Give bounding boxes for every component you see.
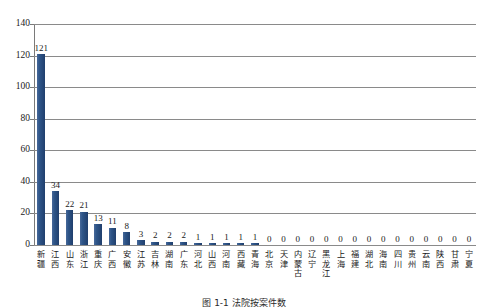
y-tick-label: 140 — [0, 19, 30, 28]
y-tick-label: 60 — [0, 145, 30, 154]
x-axis-label: 黑龙江 — [319, 250, 333, 279]
y-tick-label: 40 — [0, 177, 30, 186]
bar-value-label: 0 — [456, 235, 482, 244]
bar-slot: 11 — [105, 24, 119, 245]
x-axis-label: 上海 — [333, 250, 347, 269]
bar-slot: 1 — [191, 24, 205, 245]
bar-slot: 0 — [262, 24, 276, 245]
y-tick-label: 0 — [0, 240, 30, 249]
x-axis-line — [34, 245, 476, 246]
x-axis-label: 河南 — [219, 250, 233, 269]
x-axis-label: 江西 — [48, 250, 62, 269]
x-axis-label: 贵州 — [405, 250, 419, 269]
bar-slot: 0 — [333, 24, 347, 245]
bar-slot: 0 — [419, 24, 433, 245]
x-axis-label: 河北 — [191, 250, 205, 269]
x-axis-label: 内蒙古 — [291, 250, 305, 279]
x-axis-label: 甘肃 — [447, 250, 461, 269]
bar-slot: 3 — [134, 24, 148, 245]
bar — [37, 54, 44, 245]
x-axis-label: 广东 — [177, 250, 191, 269]
bar-slot: 0 — [291, 24, 305, 245]
bar — [166, 242, 173, 245]
y-tick-label: 20 — [0, 208, 30, 217]
figure-caption: 图 1-1 法院按案件数 — [0, 298, 488, 308]
bar — [137, 240, 144, 245]
bar — [223, 243, 230, 245]
x-axis-label: 浙江 — [77, 250, 91, 269]
bar-slot: 0 — [376, 24, 390, 245]
y-tick-label: 120 — [0, 51, 30, 60]
x-axis-label: 云南 — [419, 250, 433, 269]
bar — [209, 243, 216, 245]
x-axis-label: 江苏 — [134, 250, 148, 269]
bar-slot: 1 — [205, 24, 219, 245]
bar — [94, 224, 101, 245]
bar-slot: 0 — [462, 24, 476, 245]
bar-slot: 0 — [319, 24, 333, 245]
bar-slot: 1 — [248, 24, 262, 245]
bar-slot: 0 — [305, 24, 319, 245]
x-axis-label: 山西 — [205, 250, 219, 269]
x-axis-label: 北京 — [262, 250, 276, 269]
bar — [66, 210, 73, 245]
bar-slot: 1 — [219, 24, 233, 245]
bar-slot: 2 — [162, 24, 176, 245]
bar-slot: 1 — [234, 24, 248, 245]
bar-slot: 0 — [447, 24, 461, 245]
x-axis-label: 宁夏 — [462, 250, 476, 269]
bar-series: 12134222113118322211111000000000000000 — [34, 24, 476, 245]
x-axis-label: 湖北 — [362, 250, 376, 269]
bar-slot: 0 — [362, 24, 376, 245]
y-tick-label: 100 — [0, 82, 30, 91]
bar-slot: 22 — [63, 24, 77, 245]
x-axis-label: 辽宁 — [305, 250, 319, 269]
x-axis-label: 四川 — [390, 250, 404, 269]
bar-chart: 020406080100120140 121342221131183222111… — [0, 0, 488, 308]
bar — [180, 242, 187, 245]
bar-slot: 0 — [390, 24, 404, 245]
bar-slot: 0 — [405, 24, 419, 245]
x-axis-label: 青海 — [248, 250, 262, 269]
x-axis-label: 新疆 — [34, 250, 48, 269]
bar — [251, 243, 258, 245]
bar-slot: 13 — [91, 24, 105, 245]
x-axis-label: 陕西 — [433, 250, 447, 269]
bar-slot: 34 — [48, 24, 62, 245]
bar-slot: 21 — [77, 24, 91, 245]
bar-slot: 0 — [433, 24, 447, 245]
y-tick-label: 80 — [0, 114, 30, 123]
x-axis-label: 广西 — [105, 250, 119, 269]
x-axis-label: 福建 — [348, 250, 362, 269]
bar-slot: 8 — [120, 24, 134, 245]
bar-slot: 2 — [177, 24, 191, 245]
x-axis-label: 安徽 — [120, 250, 134, 269]
bar — [237, 243, 244, 245]
x-axis-label: 天津 — [276, 250, 290, 269]
x-axis-label: 海南 — [376, 250, 390, 269]
x-axis-labels: 新疆江西山东浙江重庆广西安徽江苏吉林湖南广东河北山西河南西藏青海北京天津内蒙古辽… — [34, 250, 476, 296]
bar-slot: 121 — [34, 24, 48, 245]
bar-slot: 0 — [276, 24, 290, 245]
x-axis-label: 西藏 — [234, 250, 248, 269]
x-axis-label: 湖南 — [162, 250, 176, 269]
bar-slot: 0 — [348, 24, 362, 245]
bar — [194, 243, 201, 245]
bar-slot: 2 — [148, 24, 162, 245]
x-axis-label: 吉林 — [148, 250, 162, 269]
x-axis-label: 重庆 — [91, 250, 105, 269]
y-tick-mark — [30, 245, 34, 246]
bar — [151, 242, 158, 245]
x-axis-label: 山东 — [63, 250, 77, 269]
